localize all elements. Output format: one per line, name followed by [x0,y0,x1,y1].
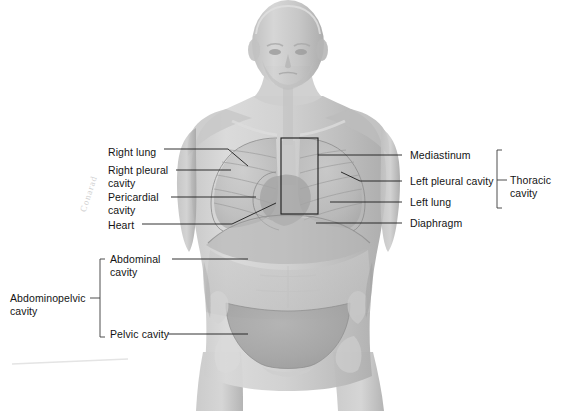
ear-left-shape [248,39,260,61]
eye-left-shape [269,49,281,55]
label-mediastinum: Mediastinum [410,149,471,162]
label-thoracic-cavity: Thoracic cavity [510,174,576,199]
head-shape [252,0,324,88]
abdominopelvic-cavity-bracket [90,259,105,337]
label-left-pleural-cavity: Left pleural cavity [410,175,494,188]
label-heart: Heart [108,219,134,232]
label-left-lung: Left lung [410,196,451,209]
label-right-pleural-cavity: Right pleural cavity [108,164,168,189]
eye-right-shape [295,49,307,55]
arm-left-shape [177,128,196,252]
label-pericardial-cavity: Pericardial cavity [108,191,159,216]
human-figure-illustration [177,0,400,411]
label-pelvic-cavity: Pelvic cavity [110,328,169,341]
stray-pencil-mark [12,359,128,364]
ear-right-shape [316,39,328,61]
label-diaphragm: Diaphragm [410,217,462,230]
thoracic-cavity-bracket [497,150,507,208]
label-right-lung: Right lung [108,146,156,159]
label-abdominal-cavity: Abdominal cavity [110,253,161,278]
arm-right-shape [381,128,400,252]
label-abdominopelvic-cavity: Abdominopelvic cavity [10,292,86,317]
